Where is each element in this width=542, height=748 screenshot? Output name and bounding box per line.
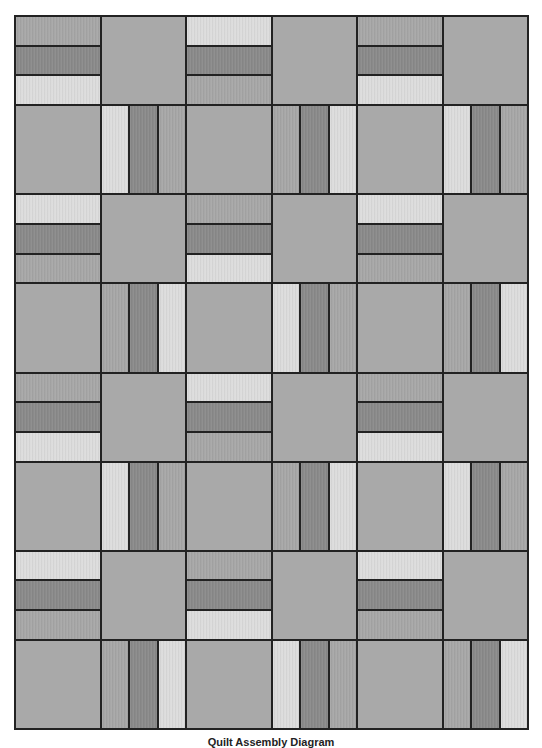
strip-medium xyxy=(16,609,100,639)
strip-medium xyxy=(273,106,300,193)
horizontal-rail-block xyxy=(186,16,272,105)
strip-medium xyxy=(273,463,300,550)
strip-light xyxy=(157,284,186,371)
plain-square-block xyxy=(443,194,529,283)
strip-medium xyxy=(16,374,100,402)
plain-square-block xyxy=(186,283,272,372)
vertical-rail-block xyxy=(272,462,358,551)
strip-dark xyxy=(470,284,499,371)
horizontal-rail-block xyxy=(15,16,101,105)
strip-light xyxy=(187,374,271,402)
plain-square-block xyxy=(186,462,272,551)
strip-light xyxy=(444,463,471,550)
strip-light xyxy=(187,17,271,45)
horizontal-rail-block xyxy=(357,194,443,283)
strip-medium xyxy=(444,641,471,728)
strip-light xyxy=(358,195,442,223)
strip-medium xyxy=(102,641,129,728)
strip-light xyxy=(328,463,357,550)
strip-light xyxy=(16,552,100,580)
strip-medium xyxy=(187,552,271,580)
strip-medium xyxy=(187,195,271,223)
strip-light xyxy=(328,106,357,193)
strip-dark xyxy=(128,284,157,371)
strip-medium xyxy=(358,253,442,283)
plain-square-block xyxy=(443,373,529,462)
plain-square-block xyxy=(15,105,101,194)
horizontal-rail-block xyxy=(357,16,443,105)
vertical-rail-block xyxy=(272,640,358,729)
plain-square-block xyxy=(15,462,101,551)
strip-dark xyxy=(128,106,157,193)
strip-medium xyxy=(358,17,442,45)
horizontal-rail-block xyxy=(186,551,272,640)
strip-dark xyxy=(299,463,328,550)
strip-dark xyxy=(187,401,271,431)
strip-medium xyxy=(102,284,129,371)
strip-medium xyxy=(187,431,271,461)
horizontal-rail-block xyxy=(15,551,101,640)
strip-dark xyxy=(128,463,157,550)
strip-dark xyxy=(358,401,442,431)
strip-light xyxy=(16,431,100,461)
vertical-rail-block xyxy=(272,283,358,372)
strip-light xyxy=(187,253,271,283)
strip-dark xyxy=(358,45,442,75)
strip-medium xyxy=(499,463,528,550)
strip-light xyxy=(358,74,442,104)
strip-dark xyxy=(16,223,100,253)
strip-medium xyxy=(157,106,186,193)
strip-medium xyxy=(328,641,357,728)
strip-dark xyxy=(358,223,442,253)
vertical-rail-block xyxy=(272,105,358,194)
horizontal-rail-block xyxy=(15,194,101,283)
strip-light xyxy=(273,641,300,728)
strip-light xyxy=(273,284,300,371)
strip-medium xyxy=(157,463,186,550)
horizontal-rail-block xyxy=(15,373,101,462)
strip-dark xyxy=(470,463,499,550)
strip-dark xyxy=(358,579,442,609)
strip-dark xyxy=(128,641,157,728)
horizontal-rail-block xyxy=(186,373,272,462)
strip-dark xyxy=(16,579,100,609)
plain-square-block xyxy=(272,551,358,640)
horizontal-rail-block xyxy=(186,194,272,283)
strip-light xyxy=(358,431,442,461)
plain-square-block xyxy=(357,640,443,729)
strip-light xyxy=(102,106,129,193)
strip-light xyxy=(499,284,528,371)
strip-dark xyxy=(470,641,499,728)
strip-dark xyxy=(299,106,328,193)
strip-light xyxy=(358,552,442,580)
strip-dark xyxy=(299,284,328,371)
vertical-rail-block xyxy=(101,105,187,194)
strip-dark xyxy=(16,45,100,75)
plain-square-block xyxy=(357,283,443,372)
plain-square-block xyxy=(443,16,529,105)
vertical-rail-block xyxy=(443,640,529,729)
vertical-rail-block xyxy=(101,462,187,551)
strip-light xyxy=(499,641,528,728)
horizontal-rail-block xyxy=(357,373,443,462)
plain-square-block xyxy=(101,194,187,283)
vertical-rail-block xyxy=(101,640,187,729)
strip-dark xyxy=(299,641,328,728)
plain-square-block xyxy=(101,373,187,462)
vertical-rail-block xyxy=(443,462,529,551)
strip-dark xyxy=(187,223,271,253)
plain-square-block xyxy=(357,462,443,551)
strip-medium xyxy=(328,284,357,371)
diagram-caption: Quilt Assembly Diagram xyxy=(0,736,542,748)
plain-square-block xyxy=(101,551,187,640)
plain-square-block xyxy=(272,194,358,283)
strip-light xyxy=(187,609,271,639)
strip-medium xyxy=(187,74,271,104)
plain-square-block xyxy=(15,640,101,729)
strip-medium xyxy=(358,374,442,402)
horizontal-rail-block xyxy=(357,551,443,640)
strip-light xyxy=(102,463,129,550)
quilt-assembly-grid xyxy=(14,15,529,730)
plain-square-block xyxy=(186,640,272,729)
plain-square-block xyxy=(272,373,358,462)
